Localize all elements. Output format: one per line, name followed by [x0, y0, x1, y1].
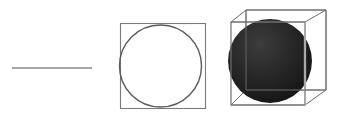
figure-square-with-circle [120, 24, 206, 109]
figure-cube-with-sphere [228, 10, 326, 105]
cube-edge-top-left-depth [231, 10, 246, 22]
inscribed-circle-outline [120, 25, 202, 107]
geometry-illustration-svg [0, 0, 342, 118]
cube-edge-bottom-right-depth [305, 90, 326, 105]
cube-edge-top-right-depth [305, 10, 326, 22]
figure-canvas: line segment square with inscribed circl… [0, 0, 342, 118]
